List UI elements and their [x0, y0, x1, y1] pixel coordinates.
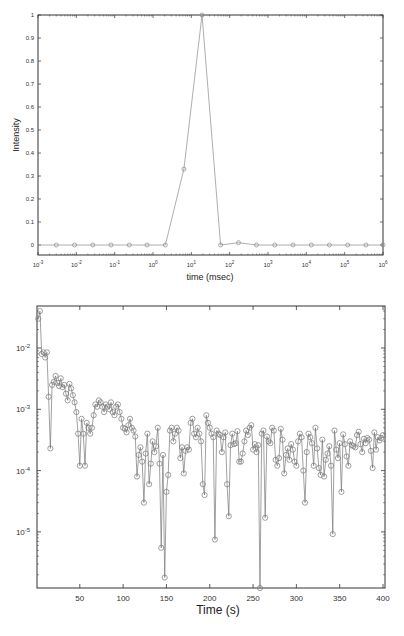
- data-point: [339, 489, 344, 494]
- data-point: [354, 432, 359, 437]
- data-point: [380, 432, 385, 437]
- data-point: [36, 316, 41, 321]
- data-point: [316, 465, 321, 470]
- data-point: [372, 430, 377, 435]
- data-point: [82, 463, 87, 468]
- data-point: [365, 435, 370, 440]
- data-point: [254, 450, 259, 455]
- data-point: [315, 446, 320, 451]
- data-point: [271, 428, 276, 433]
- svg-text:0.3: 0.3: [26, 173, 35, 179]
- data-point: [136, 452, 141, 457]
- data-point: [373, 447, 378, 452]
- data-point: [349, 443, 354, 448]
- svg-text:0.5: 0.5: [26, 127, 35, 133]
- data-point: [311, 463, 316, 468]
- svg-text:10-3: 10-3: [16, 404, 31, 414]
- data-point: [69, 386, 74, 391]
- data-point: [143, 451, 148, 456]
- chart1-x-axis-label: time (msec): [187, 272, 234, 282]
- data-point: [209, 431, 214, 436]
- chart2-x-axis-label: Time (s): [196, 603, 240, 617]
- data-point: [63, 391, 68, 396]
- data-point: [48, 446, 53, 451]
- data-point: [65, 398, 70, 403]
- data-point: [252, 442, 257, 447]
- data-point: [268, 441, 273, 446]
- data-point: [368, 448, 373, 453]
- data-point: [283, 452, 288, 457]
- data-point: [105, 404, 110, 409]
- data-point: [200, 482, 205, 487]
- data-point: [164, 489, 169, 494]
- data-point: [126, 423, 131, 428]
- data-point: [219, 450, 224, 455]
- data-point: [176, 428, 181, 433]
- data-point: [88, 431, 93, 436]
- svg-text:1: 1: [31, 12, 35, 18]
- data-point: [100, 404, 105, 409]
- data-point: [147, 482, 152, 487]
- data-point: [49, 382, 54, 387]
- data-point: [327, 444, 332, 449]
- data-point: [197, 431, 202, 436]
- data-point: [230, 431, 235, 436]
- data-point: [84, 420, 89, 425]
- data-point: [134, 474, 139, 479]
- data-point: [171, 439, 176, 444]
- data-point: [96, 398, 101, 403]
- data-point: [157, 461, 162, 466]
- data-point: [119, 416, 124, 421]
- chart2-axes-frame: [37, 306, 385, 588]
- data-point: [121, 425, 126, 430]
- data-point: [75, 431, 80, 436]
- svg-text:200: 200: [203, 594, 217, 603]
- data-point: [131, 428, 136, 433]
- data-point: [55, 380, 60, 385]
- data-point: [115, 402, 120, 407]
- data-point: [289, 442, 294, 447]
- data-point: [313, 425, 318, 430]
- data-point: [114, 404, 119, 409]
- data-point: [159, 545, 164, 550]
- data-point: [183, 448, 188, 453]
- svg-text:0.1: 0.1: [26, 219, 35, 225]
- intensity-chart: 00.10.20.30.40.50.60.70.80.9110-310-210-…: [0, 0, 404, 290]
- data-point: [321, 474, 326, 479]
- data-point: [238, 459, 243, 464]
- data-point: [37, 308, 42, 313]
- data-point: [39, 351, 44, 356]
- data-point: [297, 431, 302, 436]
- data-point: [330, 532, 335, 537]
- data-point: [292, 459, 297, 464]
- data-point: [110, 410, 115, 415]
- data-point: [278, 426, 283, 431]
- data-point: [296, 439, 301, 444]
- svg-text:0.8: 0.8: [26, 58, 35, 64]
- data-point: [101, 410, 106, 415]
- svg-text:10-2: 10-2: [16, 343, 31, 353]
- data-point: [344, 454, 349, 459]
- data-point: [67, 381, 72, 386]
- data-point: [341, 432, 346, 437]
- data-point: [153, 444, 158, 449]
- chart1-axes-frame: [38, 15, 383, 255]
- svg-text:10-4: 10-4: [16, 466, 31, 476]
- data-point: [280, 437, 285, 442]
- data-point: [363, 441, 368, 446]
- data-point: [263, 515, 268, 520]
- data-point: [204, 413, 209, 418]
- data-point: [259, 431, 264, 436]
- data-point: [46, 394, 51, 399]
- svg-text:104: 104: [302, 260, 312, 268]
- data-point: [95, 404, 100, 409]
- data-point: [353, 445, 358, 450]
- svg-text:100: 100: [116, 594, 130, 603]
- data-point: [351, 444, 356, 449]
- svg-text:0.6: 0.6: [26, 104, 35, 110]
- data-point: [112, 413, 117, 418]
- data-point: [93, 402, 98, 407]
- data-point: [107, 407, 112, 412]
- chart2-ticks: 5010015020025030035040010-210-310-410-5: [16, 306, 390, 603]
- data-point: [186, 447, 191, 452]
